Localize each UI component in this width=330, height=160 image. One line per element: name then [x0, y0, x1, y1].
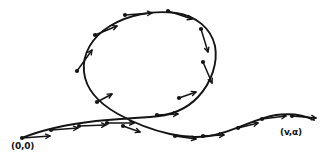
- vector-base-dot: [236, 126, 240, 130]
- vector-base-dot: [20, 136, 24, 140]
- vector-lower-mid: [105, 121, 134, 125]
- vector-lower-left-1: [49, 126, 78, 132]
- vector-shaft: [203, 62, 212, 83]
- vector-bottom-trough-2: [201, 133, 224, 138]
- vector-loop-upper-left: [93, 26, 117, 37]
- curve-layer: [22, 12, 314, 138]
- vector-base-dot: [199, 27, 203, 31]
- vector-loop-top-left: [123, 11, 152, 17]
- vector-base-dot: [201, 134, 205, 138]
- vector-base-dot: [77, 124, 81, 128]
- vector-start: [20, 134, 50, 140]
- vector-shaft: [79, 125, 106, 126]
- vector-base-dot: [95, 100, 99, 104]
- vector-base-dot: [75, 69, 79, 73]
- vector-shaft: [95, 26, 117, 35]
- vector-base-dot: [123, 13, 127, 17]
- vector-base-dot: [177, 96, 181, 100]
- vector-loop-right-mid: [201, 60, 212, 83]
- figure-canvas: (0,0) (v,α): [0, 0, 330, 160]
- vector-shaft: [203, 135, 224, 136]
- vector-base-dot: [290, 114, 294, 118]
- vector-loop-right-lower: [177, 91, 196, 100]
- vector-base-dot: [260, 117, 264, 121]
- tangent-vector-layer: [20, 9, 316, 141]
- vector-base-dot: [105, 121, 109, 125]
- vector-base-dot: [93, 33, 97, 37]
- vector-loop-top-right: [166, 9, 192, 20]
- end-point-label: (v,α): [280, 127, 302, 137]
- vector-descending: [155, 112, 178, 117]
- vector-base-dot: [173, 134, 177, 138]
- vector-base-dot: [166, 9, 170, 13]
- vector-base-dot: [49, 128, 53, 132]
- vector-bottom-trough-1: [173, 134, 196, 141]
- start-point-label: (0,0): [11, 141, 34, 151]
- vector-base-dot: [155, 113, 159, 117]
- vector-base-dot: [201, 60, 205, 64]
- trajectory-curve: [22, 12, 314, 138]
- vector-base-dot: [121, 124, 125, 128]
- vector-shaft: [157, 114, 178, 115]
